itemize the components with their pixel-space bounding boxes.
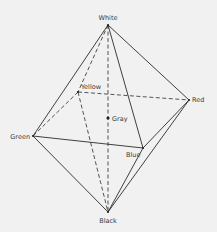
points-group bbox=[32, 24, 190, 213]
vertex-gray bbox=[106, 116, 109, 119]
label-green: Green bbox=[10, 133, 30, 141]
vertex-black bbox=[107, 211, 109, 213]
vertex-yellow bbox=[77, 91, 79, 93]
edge-yellow-black bbox=[78, 92, 108, 212]
edge-white-yellow bbox=[78, 25, 108, 92]
label-white: White bbox=[99, 14, 118, 22]
label-black: Black bbox=[99, 217, 117, 225]
edge-white-green bbox=[33, 25, 108, 136]
edge-yellow-red bbox=[78, 92, 189, 100]
color-octahedron-diagram: White Yellow Red Gray Green Blue Black bbox=[0, 0, 217, 232]
vertex-green bbox=[32, 135, 34, 137]
vertex-blue bbox=[142, 147, 144, 149]
label-gray: Gray bbox=[112, 115, 128, 123]
vertex-red bbox=[188, 99, 190, 101]
edge-white-red bbox=[108, 25, 189, 100]
edge-red-blue bbox=[143, 100, 189, 148]
edge-green-blue bbox=[33, 136, 143, 148]
label-red: Red bbox=[192, 96, 204, 104]
octahedron-svg: White Yellow Red Gray Green Blue Black bbox=[0, 0, 217, 232]
edge-white-blue bbox=[108, 25, 143, 148]
label-blue: Blue bbox=[126, 151, 140, 159]
edge-green-black bbox=[33, 136, 108, 212]
edge-yellow-green bbox=[33, 92, 78, 136]
vertex-white bbox=[107, 24, 109, 26]
label-yellow: Yellow bbox=[80, 83, 102, 91]
edges-group bbox=[33, 25, 189, 212]
